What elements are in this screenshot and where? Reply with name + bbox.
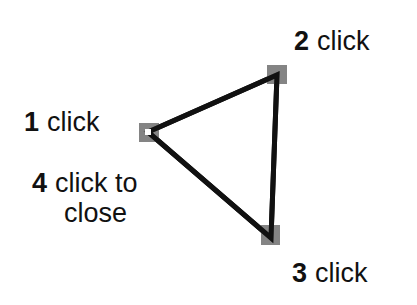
triangle-edges <box>148 75 277 238</box>
step-4-label: 4click to <box>32 168 138 198</box>
step-1-label: 1click <box>24 107 100 137</box>
triangle-polygon <box>148 75 277 238</box>
vertex-point-1 <box>145 129 151 135</box>
step-3-label: 3click <box>292 258 368 288</box>
step-4-label-line2: close <box>64 198 127 228</box>
step-2-label: 2click <box>294 26 370 56</box>
